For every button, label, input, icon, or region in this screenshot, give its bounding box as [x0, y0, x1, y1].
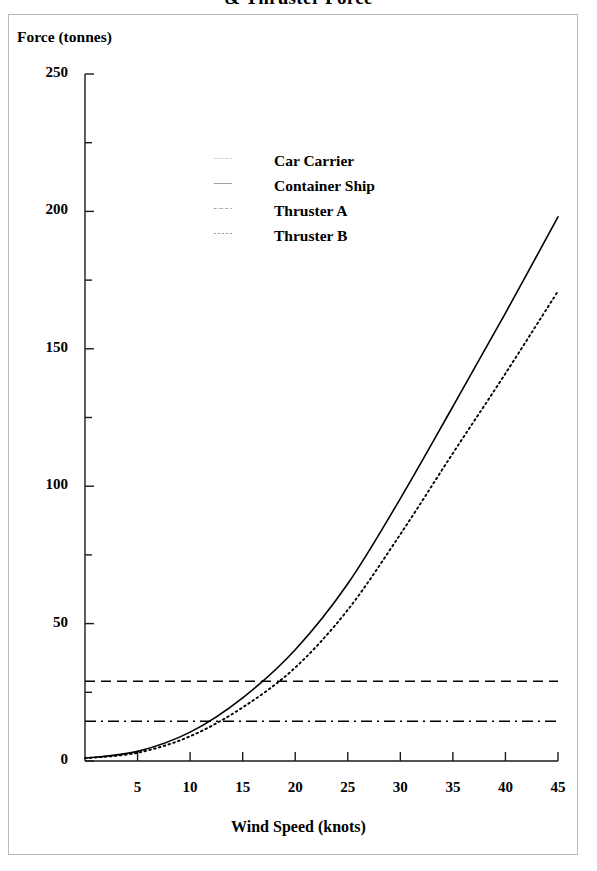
legend-label: Thruster A	[274, 198, 347, 223]
legend-line-sample	[186, 208, 260, 209]
y-tick-label: 50	[22, 614, 68, 631]
legend-line-sample	[186, 183, 260, 184]
y-tick-label: 150	[22, 339, 68, 356]
x-tick-label: 5	[118, 779, 158, 796]
x-tick-label: 10	[170, 779, 210, 796]
chart-page: & Thruster Force Force (tonnes) Wind Spe…	[0, 0, 597, 871]
legend-item: Thruster B	[186, 223, 436, 248]
y-tick-label: 0	[22, 751, 68, 768]
x-tick-label: 15	[223, 779, 263, 796]
x-tick-label: 45	[538, 779, 578, 796]
legend-line-sample	[186, 233, 260, 234]
x-tick-label: 25	[328, 779, 368, 796]
chart-legend: Car CarrierContainer ShipThruster AThrus…	[186, 148, 436, 248]
y-tick-label: 100	[22, 476, 68, 493]
legend-label: Container Ship	[274, 173, 375, 198]
x-tick-label: 30	[380, 779, 420, 796]
x-tick-label: 40	[485, 779, 525, 796]
legend-item: Car Carrier	[186, 148, 436, 173]
legend-label: Car Carrier	[274, 148, 354, 173]
series-car-carrier	[85, 291, 558, 758]
x-tick-label: 35	[433, 779, 473, 796]
legend-line-sample	[186, 158, 260, 159]
y-tick-label: 250	[22, 64, 68, 81]
legend-item: Container Ship	[186, 173, 436, 198]
y-tick-label: 200	[22, 201, 68, 218]
legend-label: Thruster B	[274, 223, 347, 248]
series-container-ship	[85, 217, 558, 758]
x-tick-label: 20	[275, 779, 315, 796]
plot-area	[0, 0, 597, 871]
legend-item: Thruster A	[186, 198, 436, 223]
